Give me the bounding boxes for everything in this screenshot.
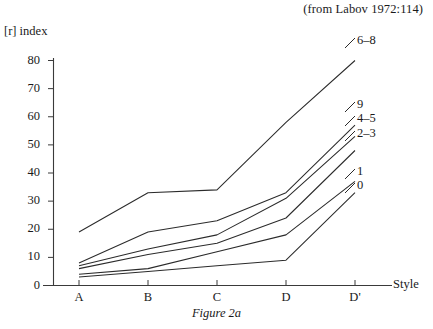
series-label-leader [345,116,355,126]
x-tick-label: A [67,290,91,305]
y-tick-label: 60 [14,109,40,124]
y-tick-label: 30 [14,193,40,208]
y-tick-label: 0 [14,278,40,293]
series-line [79,125,355,263]
figure-caption: Figure 2a [0,306,433,321]
series-label: 0 [357,178,363,193]
series-label: 6–8 [357,33,376,48]
data-lines [79,38,355,277]
x-tick-label: D' [343,290,367,305]
series-label-leader [345,102,355,112]
series-label-leader [345,38,355,48]
series-label: 1 [357,164,363,179]
series-label: 2–3 [357,126,376,141]
series-label-leader [345,169,355,179]
x-tick-label: D [274,290,298,305]
y-tick-label: 80 [14,53,40,68]
x-tick-label: B [136,290,160,305]
figure-2a: (from Labov 1972:114) [r] index Style 01… [0,0,433,329]
series-label-leader [345,131,355,141]
y-tick-label: 20 [14,221,40,236]
series-label: 4–5 [357,111,376,126]
series-label: 9 [357,97,363,112]
y-tick-label: 70 [14,81,40,96]
series-line [79,136,355,265]
series-line [79,61,355,233]
line-chart-plot [0,0,433,329]
y-tick-label: 40 [14,165,40,180]
y-tick-label: 50 [14,137,40,152]
y-tick-label: 10 [14,249,40,264]
series-line [79,151,355,269]
x-tick-label: C [205,290,229,305]
